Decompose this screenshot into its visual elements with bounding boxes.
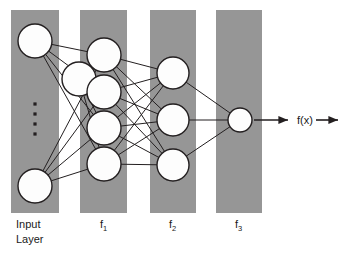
node-f2-3 [157,149,189,181]
label-input: Input [16,218,40,230]
node-f1-2 [87,75,121,109]
label-input-line2: Layer [16,233,44,245]
output-label-fx: f(x) [297,114,313,126]
node-f2-1 [157,57,189,89]
edge-f1-3-to-f2-2 [121,164,157,165]
ellipsis-dot-4 [33,132,36,135]
ellipsis-dot-3 [33,122,36,125]
node-input-1 [18,24,52,58]
label-f1: f1 [100,218,107,233]
diagram-canvas: InputLayerf1f2f3f(x) [0,0,340,259]
label-f3: f3 [235,218,242,233]
node-f1-4 [87,147,121,181]
neural-network-diagram: InputLayerf1f2f3f(x) [0,0,340,259]
node-f1-1 [87,38,121,72]
ellipsis-dot-1 [33,102,36,105]
node-input-3 [18,169,52,203]
ellipsis-dot-2 [33,112,36,115]
label-f2: f2 [169,218,176,233]
node-f1-3 [87,111,121,145]
node-f2-2 [157,104,189,136]
node-f3-1 [228,108,252,132]
